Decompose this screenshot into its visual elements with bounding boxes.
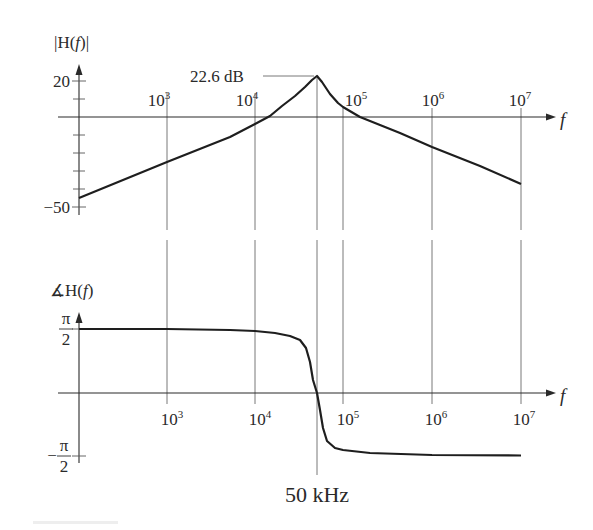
svg-text:106: 106 (422, 89, 445, 110)
phase-y-label: ∡H(f) (50, 281, 93, 300)
svg-text:107: 107 (513, 408, 536, 429)
svg-text:2: 2 (60, 457, 69, 476)
svg-text:105: 105 (345, 89, 368, 110)
scan-artifact (33, 521, 118, 524)
svg-text:105: 105 (337, 408, 360, 429)
svg-text:106: 106 (425, 408, 448, 429)
phase-y-arrow-icon (76, 312, 83, 323)
magnitude-curve (79, 76, 521, 198)
magnitude-y-label: |H(f)| (54, 33, 89, 52)
magnitude-y-arrow-icon (76, 64, 83, 75)
peak-annotation: 22.6 dB (190, 67, 244, 86)
phase-x-tick-labels: 103 104 105 106 107 (161, 408, 536, 429)
magnitude-ytick-minus50: −50 (43, 198, 70, 217)
resonance-frequency-label: 50 kHz (285, 482, 349, 507)
magnitude-x-tick-labels: 103 104 105 106 107 (148, 89, 532, 110)
magnitude-plot: |H(f)| 20 −50 103 104 105 106 107 f 22.6… (43, 33, 568, 230)
bode-plot: |H(f)| 20 −50 103 104 105 106 107 f 22.6… (0, 0, 593, 530)
magnitude-ytick-20: 20 (53, 72, 70, 91)
phase-x-label: f (560, 385, 568, 406)
svg-text:π: π (62, 309, 71, 328)
svg-text:103: 103 (161, 408, 184, 429)
phase-grid (167, 240, 521, 475)
phase-plot: ∡H(f) π 2 − π 2 103 104 105 106 107 f 50… (47, 240, 568, 507)
magnitude-x-arrow-icon (546, 114, 556, 121)
phase-curve (79, 329, 521, 456)
svg-text:107: 107 (509, 89, 532, 110)
svg-text:π: π (60, 436, 69, 455)
svg-text:−: − (47, 446, 57, 465)
svg-text:2: 2 (62, 330, 71, 349)
phase-ytick-label-pi-over-2: π 2 (59, 309, 73, 349)
magnitude-x-label: f (560, 109, 568, 130)
svg-text:104: 104 (249, 408, 272, 429)
phase-ytick-label-minus-pi-over-2: − π 2 (47, 436, 71, 476)
phase-x-arrow-icon (546, 390, 556, 397)
